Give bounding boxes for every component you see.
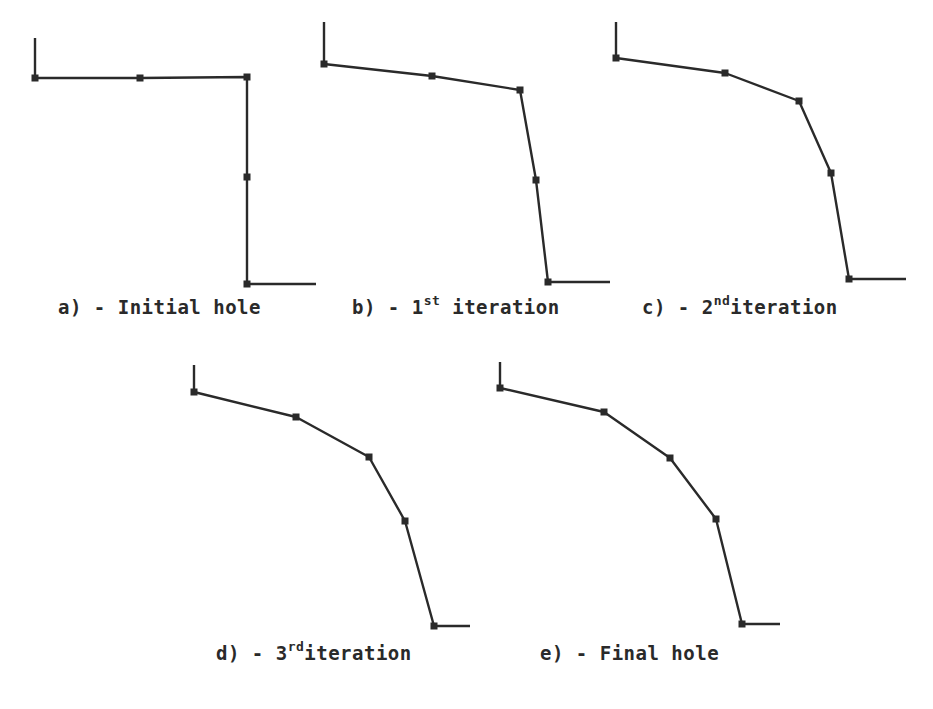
panel-b-1st-iteration [321,22,611,286]
node-marker [321,61,328,68]
hole-profile-line [324,64,548,282]
node-marker [722,70,729,77]
caption-1st-iteration: b) - 1st iteration [352,296,560,318]
hole-profile-line [35,77,247,284]
node-marker [244,281,251,288]
node-marker [244,174,251,181]
node-marker [293,414,300,421]
node-marker [601,409,608,416]
node-marker [366,454,373,461]
hole-profile-line [616,58,849,279]
hole-profile-line [500,388,742,624]
node-marker [796,98,803,105]
panel-e-final-hole [497,362,781,628]
node-marker [739,621,746,628]
node-marker [429,73,436,80]
node-marker [545,279,552,286]
node-marker [667,455,674,462]
node-marker [713,516,720,523]
node-marker [846,276,853,283]
node-marker [191,389,198,396]
node-marker [431,623,438,630]
hole-profile-line [194,392,434,626]
node-marker [402,518,409,525]
hole-iteration-diagram [0,0,933,709]
caption-2nd-iteration: c) - 2nditeration [642,296,838,318]
caption-3rd-iteration: d) - 3rditeration [216,642,412,664]
node-marker [613,55,620,62]
node-marker [533,177,540,184]
node-marker [244,74,251,81]
node-marker [828,170,835,177]
node-marker [137,75,144,82]
node-marker [32,75,39,82]
panel-c-2nd-iteration [613,22,907,283]
node-marker [497,385,504,392]
node-marker [517,87,524,94]
caption-final-hole: e) - Final hole [540,642,719,664]
panel-a-initial-hole [32,38,317,288]
caption-initial-hole: a) - Initial hole [58,296,261,318]
panel-d-3rd-iteration [191,365,471,630]
